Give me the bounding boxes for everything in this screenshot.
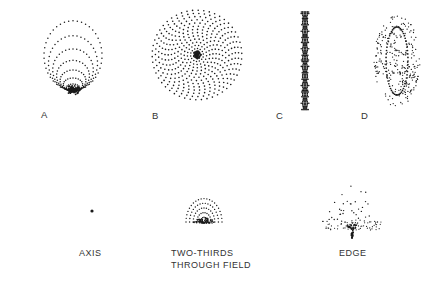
label-two-thirds-line2: THROUGH FIELD [171, 260, 251, 271]
spot-diagram-a [43, 20, 102, 95]
label-edge: EDGE [339, 248, 367, 259]
label-a: A [41, 109, 48, 120]
spot-diagram-d [373, 16, 420, 107]
spot-diagram-edge [322, 185, 381, 238]
label-two-thirds-line1: TWO-THIRDS [171, 248, 234, 259]
label-d: D [361, 110, 368, 121]
spot-diagram-axis [90, 209, 93, 212]
spot-diagram-b [151, 9, 242, 100]
spot-diagram-canvas [0, 0, 430, 282]
label-c: C [276, 110, 283, 121]
spot-diagram-c [300, 11, 309, 111]
label-axis: AXIS [79, 248, 102, 259]
spot-diagram-two-thirds [185, 198, 222, 224]
label-b: B [152, 110, 159, 121]
